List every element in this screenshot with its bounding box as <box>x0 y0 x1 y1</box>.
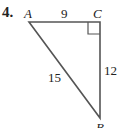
triangle-abc <box>29 22 100 118</box>
side-label-ac: 9 <box>61 7 68 20</box>
side-label-ab: 15 <box>48 71 61 84</box>
side-label-cb: 12 <box>104 64 117 77</box>
vertex-label-b: B <box>96 121 104 128</box>
vertex-label-c: C <box>93 7 102 20</box>
right-angle-marker <box>88 22 100 34</box>
vertex-label-a: A <box>24 7 32 20</box>
